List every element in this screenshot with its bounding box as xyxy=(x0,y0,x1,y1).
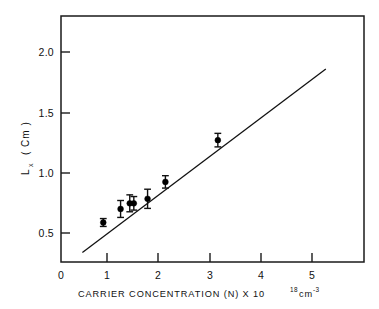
data-marker xyxy=(145,196,151,202)
data-marker xyxy=(215,137,221,143)
x-tick-label-0: 0 xyxy=(58,269,64,281)
x-tick-label-1: 1 xyxy=(104,269,110,281)
y-tick-label-1-0: 1.0 xyxy=(39,167,55,179)
data-marker xyxy=(131,200,137,206)
x-axis-label-unit-exponent: -3 xyxy=(313,286,320,293)
y-axis-label-subscript: x xyxy=(27,163,34,167)
x-tick-label-5: 5 xyxy=(309,269,315,281)
scatter-plot: 2.0 1.5 1.0 0.5 0 1 2 3 4 5 CARRIER CONC… xyxy=(0,0,379,309)
x-tick-label-4: 4 xyxy=(258,269,264,281)
x-tick-label-3: 3 xyxy=(207,269,213,281)
data-marker xyxy=(100,220,106,226)
x-tick-label-2: 2 xyxy=(155,269,161,281)
data-marker xyxy=(162,179,168,185)
x-axis-label-exponent: 18 xyxy=(290,286,298,293)
y-tick-label-1-5: 1.5 xyxy=(39,107,55,119)
y-axis-label-unit: ( Cm ) xyxy=(20,121,31,155)
y-axis-label-text: L xyxy=(20,168,31,175)
figure-root: 2.0 1.5 1.0 0.5 0 1 2 3 4 5 CARRIER CONC… xyxy=(0,0,379,309)
y-tick-label-2-0: 2.0 xyxy=(39,46,55,58)
y-tick-label-0-5: 0.5 xyxy=(39,227,55,239)
x-axis-label-text: CARRIER CONCENTRATION (N) X 10 xyxy=(78,289,265,299)
data-marker xyxy=(118,206,124,212)
x-axis-label-unit: cm xyxy=(299,289,313,299)
